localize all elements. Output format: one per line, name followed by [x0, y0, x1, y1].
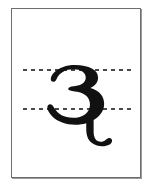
guide-line-x-height	[21, 69, 133, 71]
specimen-sheet	[11, 8, 141, 178]
specimen-page	[0, 0, 153, 189]
glyph-outline	[47, 65, 112, 146]
glyph-epsilon-icon	[12, 8, 140, 178]
guide-line-baseline	[21, 108, 133, 110]
glyph-well	[12, 9, 140, 177]
